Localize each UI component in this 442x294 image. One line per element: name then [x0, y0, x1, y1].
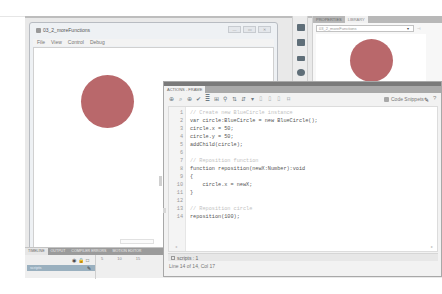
layer-header-icons: ◉ 🔒 □ [72, 257, 89, 263]
script-tabbar: scripts : 1 [168, 253, 438, 261]
find-icon[interactable]: ⌕ [177, 96, 183, 102]
auto-format-icon[interactable]: ≣ [204, 96, 210, 102]
code-editor[interactable]: 1// Create new BlueCircle instance 2var … [168, 106, 438, 252]
target-path-icon[interactable]: ⊕ [186, 96, 192, 102]
tab-output[interactable]: Output [48, 248, 69, 255]
swatches-icon[interactable] [297, 39, 305, 46]
pin-script-icon[interactable] [171, 256, 175, 260]
menu-control[interactable]: Control [68, 39, 84, 46]
actions-toolbar: ⊕ ⌕ ⊕ ✔ ≣ ⊞ ⚲ ⇅ ⇵ ▾ ⌷ ⌷ ⌷ ⌑ [168, 95, 291, 103]
menu-file[interactable]: File [37, 39, 45, 46]
script-assist-icon[interactable]: ✎ [424, 96, 429, 103]
maximize-button[interactable]: ▭ [243, 26, 256, 33]
check-syntax-icon[interactable]: ✔ [195, 96, 201, 102]
scroll-left-arrow[interactable]: ◂ [175, 244, 177, 249]
preview-circle [350, 39, 393, 82]
code-line: 1// Create new BlueCircle instance [169, 109, 437, 117]
code-line: 4circle.y = 50; [169, 133, 437, 141]
tab-compiler-errors[interactable]: Compiler Errors [68, 248, 109, 255]
pencil-icon: ✎ [87, 265, 91, 271]
horizontal-scrollbar[interactable] [120, 239, 154, 244]
library-document-select[interactable]: 03_2_moreFunctions [316, 25, 414, 32]
outline-icon[interactable]: □ [86, 257, 89, 263]
frame-15: 15 [136, 256, 140, 264]
flash-player-icon [36, 28, 41, 33]
code-line: 8function reposition(newX:Number):void [169, 165, 437, 173]
code-line: 7// Reposition function [169, 157, 437, 165]
code-line: 14reposition(100); [169, 213, 437, 221]
scroll-right-arrow[interactable]: ▸ [431, 244, 433, 249]
code-snippets-label: Code Snippets [391, 96, 424, 102]
code-line: 3circle.x = 50; [169, 125, 437, 133]
cursor-status: Line 14 of 14, Col 17 [169, 263, 215, 269]
swf-window-title: 03_2_moreFunctions [36, 27, 90, 33]
lock-icon[interactable]: 🔒 [78, 257, 84, 263]
code-line: 2var circle:BlueCircle = new BlueCircle(… [169, 117, 437, 125]
expand-all-icon[interactable]: ▾ [249, 96, 255, 102]
layer-row-scripts[interactable]: scripts [27, 265, 95, 271]
code-line: 12 [169, 197, 437, 205]
code-line: 11} [169, 189, 437, 197]
frame-ruler: 5 10 15 [97, 256, 164, 264]
actions-tabbar: Actions - Frame [164, 86, 441, 93]
timeline-panel: Timeline Output Compiler Errors Motion E… [25, 247, 164, 278]
eye-icon[interactable]: ◉ [72, 257, 76, 263]
library-panel: Properties Library 03_2_moreFunctions ▾ … [312, 16, 442, 86]
tab-motion-editor[interactable]: Motion Editor [110, 248, 145, 255]
add-statement-icon[interactable]: ⊕ [168, 96, 174, 102]
pin-icon[interactable]: ⊣ [417, 26, 420, 31]
code-line: 13// Reposition circle [169, 205, 437, 213]
tab-properties[interactable]: Properties [313, 16, 345, 23]
code-line: 6 [169, 149, 437, 157]
code-line: 10 circle.x = newX; [169, 181, 437, 189]
code-snippets-icon [384, 97, 389, 102]
swf-menubar: File View Control Debug [33, 39, 274, 46]
frame-10: 10 [117, 256, 121, 264]
color-panel-icon[interactable] [297, 24, 305, 31]
menu-debug[interactable]: Debug [90, 39, 105, 46]
script-tab[interactable]: scripts : 1 [171, 255, 198, 261]
line-comment-icon[interactable]: ⌷ [267, 96, 273, 102]
show-toolbox-icon[interactable]: ⌑ [285, 96, 291, 102]
help-icon[interactable]: ? [433, 95, 436, 101]
chevron-down-icon[interactable]: ▾ [404, 26, 412, 31]
timeline-divider [95, 255, 96, 279]
frame-5: 5 [101, 256, 103, 264]
code-line: 9{ [169, 173, 437, 181]
swf-title-text: 03_2_moreFunctions [43, 27, 90, 33]
actions-panel: Actions - Frame ⊕ ⌕ ⊕ ✔ ≣ ⊞ ⚲ ⇅ ⇵ ▾ ⌷ ⌷ … [163, 81, 442, 277]
collapse-between-icon[interactable]: ⇅ [231, 96, 237, 102]
window-controls: — ▭ ✕ [228, 26, 271, 33]
close-button[interactable]: ✕ [258, 26, 271, 33]
stage-circle [81, 75, 134, 128]
library-preview [316, 34, 426, 86]
tab-actions-frame[interactable]: Actions - Frame [164, 86, 205, 93]
components-icon[interactable] [297, 69, 305, 76]
debug-options-icon[interactable]: ⚲ [222, 96, 228, 102]
remove-comment-icon[interactable]: ⌷ [276, 96, 282, 102]
tab-timeline[interactable]: Timeline [25, 248, 48, 255]
tab-library[interactable]: Library [345, 16, 368, 23]
menu-view[interactable]: View [51, 39, 62, 46]
collapse-marker[interactable] [163, 208, 166, 213]
align-icon[interactable] [297, 56, 305, 61]
block-comment-icon[interactable]: ⌷ [258, 96, 264, 102]
panel-resize-handle[interactable] [159, 176, 162, 186]
timeline-tabs: Timeline Output Compiler Errors Motion E… [25, 248, 164, 255]
panel-icon-strip [292, 16, 308, 88]
code-snippets-button[interactable]: Code Snippets [384, 96, 424, 102]
minimize-button[interactable]: — [228, 26, 241, 33]
code-line: 5addChild(circle); [169, 141, 437, 149]
script-tab-label: scripts : 1 [177, 255, 198, 261]
library-tabs: Properties Library [313, 16, 442, 23]
code-hint-icon[interactable]: ⊞ [213, 96, 219, 102]
collapse-selection-icon[interactable]: ⇵ [240, 96, 246, 102]
